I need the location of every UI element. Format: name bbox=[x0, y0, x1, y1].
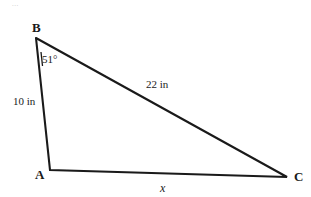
vertex-label-b: B bbox=[32, 21, 41, 34]
triangle-drawing bbox=[0, 0, 311, 197]
triangle-outline bbox=[36, 38, 287, 177]
side-length-label-ab: 10 in bbox=[13, 96, 35, 107]
triangle-diagram-canvas: ... B A C 51° 10 in 22 in x bbox=[0, 0, 311, 197]
angle-measure-label-b: 51° bbox=[42, 54, 57, 65]
vertex-label-c: C bbox=[294, 170, 303, 183]
side-length-label-ac: x bbox=[160, 182, 165, 194]
side-length-label-bc: 22 in bbox=[146, 79, 168, 90]
vertex-label-a: A bbox=[35, 168, 44, 181]
